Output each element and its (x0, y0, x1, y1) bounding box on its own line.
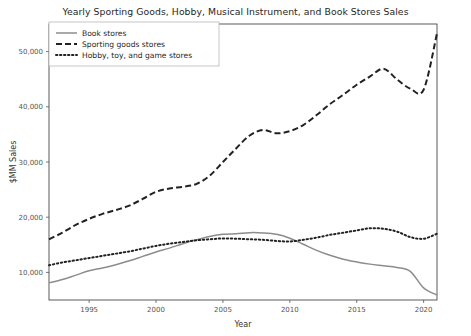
legend-label-hobby-toy-and-game-stores: Hobby, toy, and game stores (82, 51, 192, 60)
legend-label-book-stores: Book stores (82, 29, 127, 38)
y-tick-label: 40,000 (19, 103, 44, 111)
y-tick-label: 20,000 (19, 214, 44, 222)
x-tick-label: 2005 (214, 306, 232, 314)
series-line-book-stores (49, 233, 437, 295)
y-axis-title: $MM Sales (9, 141, 18, 184)
x-tick-label: 1995 (80, 306, 98, 314)
x-axis-title: Year (234, 320, 253, 329)
y-tick-label: 30,000 (19, 159, 44, 167)
chart-legend: Book stores Sporting goods stores Hobby,… (49, 22, 219, 66)
series-group (49, 33, 437, 295)
x-axis-ticks: 199520002005201020152020 (80, 300, 432, 314)
legend-label-sporting-goods-stores: Sporting goods stores (82, 40, 165, 49)
x-tick-label: 2000 (147, 306, 165, 314)
chart-figure: Yearly Sporting Goods, Hobby, Musical In… (0, 0, 471, 336)
line-chart-plot: 10,00020,00030,00040,00050,000 199520002… (0, 0, 471, 336)
x-tick-label: 2020 (415, 306, 433, 314)
y-tick-label: 50,000 (19, 48, 44, 56)
y-tick-label: 10,000 (19, 269, 44, 277)
x-tick-label: 2010 (281, 306, 299, 314)
x-tick-label: 2015 (348, 306, 366, 314)
y-axis-ticks: 10,00020,00030,00040,00050,000 (19, 48, 50, 277)
